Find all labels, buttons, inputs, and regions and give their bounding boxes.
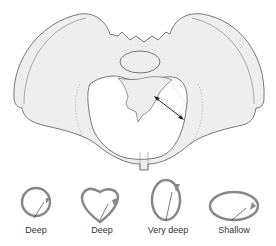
socket-tall-oval <box>152 180 180 220</box>
pelvis-diagram <box>0 0 276 246</box>
socket-heart <box>82 189 118 222</box>
socket-label: Shallow <box>204 225 264 235</box>
pelvis <box>14 14 264 170</box>
socket-label: Deep <box>6 225 66 235</box>
socket-wide-oval <box>210 192 258 220</box>
socket-round <box>22 188 50 218</box>
socket-label: Deep <box>72 225 132 235</box>
socket-label: Very deep <box>138 225 198 235</box>
